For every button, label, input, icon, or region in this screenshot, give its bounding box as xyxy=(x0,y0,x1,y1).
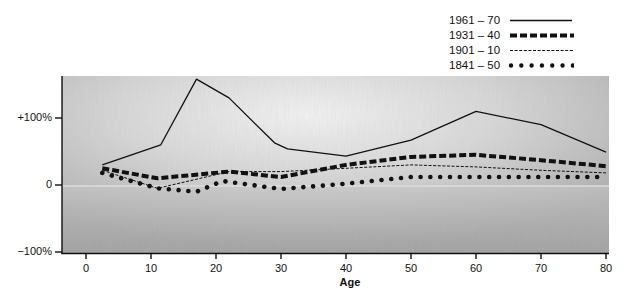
legend-item-1901-10: 1901 – 10 xyxy=(446,43,632,58)
legend-item-1961-70: 1961 – 70 xyxy=(446,13,632,28)
legend-label: 1901 – 10 xyxy=(449,43,500,58)
legend-label: 1961 – 70 xyxy=(449,13,500,28)
x-tick-label: 20 xyxy=(201,262,231,274)
x-tick-label: 50 xyxy=(396,262,426,274)
x-tick-label: 60 xyxy=(461,262,491,274)
x-tick-label: 30 xyxy=(266,262,296,274)
legend-item-1841-50: 1841 – 50 xyxy=(446,58,632,73)
chart: +100%0−100% 01020304050607080 Age 1961 –… xyxy=(0,0,632,300)
x-tick-label: 80 xyxy=(591,262,621,274)
legend-label: 1931 – 40 xyxy=(449,28,500,43)
plot-texture xyxy=(62,76,609,253)
thin-dashed-line-swatch-icon xyxy=(508,44,574,57)
y-tick-label: 0 xyxy=(0,178,52,190)
solid-line-swatch-icon xyxy=(508,14,574,27)
x-tick-label: 40 xyxy=(331,262,361,274)
x-axis-title: Age xyxy=(330,276,370,288)
legend-item-1931-40: 1931 – 40 xyxy=(446,28,632,43)
x-tick-label: 70 xyxy=(526,262,556,274)
legend: 1961 – 70 1931 – 40 1901 – 10 1841 – 50 xyxy=(446,13,632,73)
legend-label: 1841 – 50 xyxy=(449,58,500,73)
x-tick-label: 0 xyxy=(71,262,101,274)
dotted-line-swatch-icon xyxy=(508,59,574,72)
y-tick-label: −100% xyxy=(0,245,52,257)
x-tick-label: 10 xyxy=(136,262,166,274)
thick-dashed-line-swatch-icon xyxy=(508,29,574,42)
y-tick-label: +100% xyxy=(0,111,52,123)
